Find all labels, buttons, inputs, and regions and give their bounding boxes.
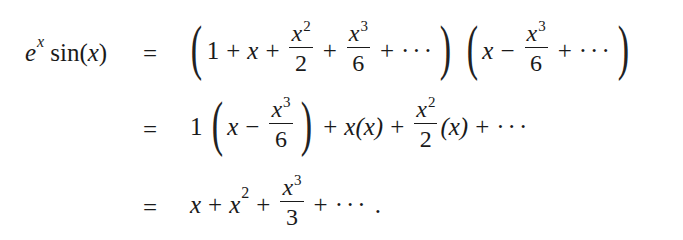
- row1-equals: =: [143, 41, 157, 66]
- term: x: [227, 114, 238, 139]
- row3-equals: =: [143, 195, 157, 220]
- lhs-function: sin: [50, 40, 79, 65]
- ellipsis: ···: [496, 114, 530, 139]
- fraction: x2 2: [289, 21, 312, 75]
- coefficient: 1: [190, 114, 203, 139]
- plus: +: [558, 38, 572, 63]
- row2-equals: =: [143, 117, 157, 142]
- row2-rhs: 1 ( x − x3 6 ) + x(x) + x2 2 (x) + ···: [190, 96, 530, 156]
- plus: +: [475, 114, 489, 139]
- lhs-arg: x: [88, 40, 99, 65]
- term: x(x): [344, 114, 383, 139]
- term: (x): [440, 114, 468, 139]
- lhs-paren-close: ): [99, 40, 107, 65]
- plus: +: [208, 192, 222, 217]
- fraction: x3 3: [280, 175, 303, 229]
- term: 1: [207, 38, 220, 63]
- plus: +: [265, 38, 279, 63]
- period: .: [375, 192, 381, 217]
- term: x: [190, 192, 201, 217]
- plus: +: [226, 38, 240, 63]
- fraction: x3 6: [525, 21, 548, 75]
- ellipsis: ···: [579, 38, 613, 63]
- plus: +: [256, 192, 270, 217]
- term: x: [229, 192, 240, 217]
- paren-close-icon: ): [440, 16, 451, 78]
- row3-rhs: x + x2 + x3 3 + ··· .: [190, 174, 381, 234]
- paren-open-icon: (: [211, 92, 222, 154]
- fraction: x2 2: [414, 97, 437, 151]
- paren-close-icon: ): [300, 92, 311, 154]
- row1-rhs: ( 1 + x + x2 2 + x3 6 + ··· ) ( x − x3 6…: [186, 20, 633, 80]
- paren-close-icon: ): [617, 16, 628, 78]
- plus: +: [390, 114, 404, 139]
- plus: +: [314, 192, 328, 217]
- ellipsis: ···: [401, 38, 435, 63]
- fraction: x3 6: [347, 21, 370, 75]
- plus: +: [323, 114, 337, 139]
- exponent: 2: [241, 185, 249, 201]
- minus: −: [245, 114, 259, 139]
- ellipsis: ···: [335, 192, 369, 217]
- term: x: [247, 38, 258, 63]
- plus: +: [380, 38, 394, 63]
- lhs-exponent: x: [37, 34, 44, 50]
- paren-open-icon: (: [466, 16, 477, 78]
- term: x: [482, 38, 493, 63]
- equation-lhs: ex sin(x): [25, 40, 107, 65]
- paren-open-icon: (: [191, 16, 202, 78]
- plus: +: [323, 38, 337, 63]
- fraction: x3 6: [269, 97, 292, 151]
- lhs-base: e: [25, 40, 36, 65]
- minus: −: [500, 38, 514, 63]
- lhs-paren-open: (: [79, 40, 87, 65]
